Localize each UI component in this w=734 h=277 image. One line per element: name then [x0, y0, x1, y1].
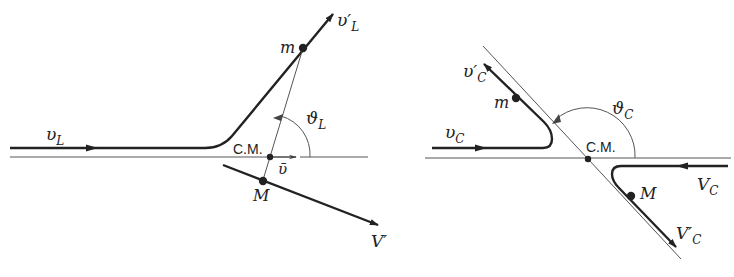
cm-cm-point	[585, 156, 591, 162]
lab-M-trajectory	[223, 165, 378, 225]
cm-cm-label: C.M.	[586, 139, 616, 155]
lab-M-label: M	[252, 186, 270, 205]
cm-v-in-label: υC	[445, 122, 465, 146]
cm-m-point	[512, 94, 520, 102]
cm-theta-label: ϑC	[612, 98, 633, 122]
collision-diagram: υL υ′L m M V′ C.M. ῡ ϑL υ′C m υC C.M. ϑC…	[0, 0, 734, 277]
cm-M-incoming-arrow-icon	[676, 163, 688, 170]
cm-m-incoming-arrow-icon	[475, 145, 487, 152]
lab-m-label: m	[280, 38, 295, 57]
lab-m-point	[299, 44, 307, 52]
cm-scatter-axis-line	[483, 46, 681, 259]
lab-V-out-label: V′	[371, 231, 387, 251]
lab-vbar-label: ῡ	[278, 160, 287, 178]
cm-M-label: M	[639, 184, 657, 203]
lab-v-out-label: υ′L	[337, 10, 359, 34]
lab-frame-panel: υL υ′L m M V′ C.M. ῡ ϑL	[10, 10, 387, 251]
cm-V-out-label: V′C	[676, 223, 701, 247]
cm-m-label: m	[494, 93, 509, 112]
lab-m-trajectory	[10, 14, 333, 148]
lab-cm-label: C.M.	[233, 141, 263, 157]
cm-M-trajectory	[612, 166, 728, 247]
lab-cm-point	[267, 154, 273, 160]
cm-M-point	[627, 192, 635, 200]
lab-v-in-label: υL	[46, 124, 64, 148]
cm-frame-panel: υ′C m υC C.M. ϑC M VC V′C	[425, 46, 731, 259]
lab-M-point	[259, 177, 267, 185]
cm-V-in-label: VC	[697, 174, 718, 198]
lab-theta-label: ϑL	[306, 108, 326, 132]
cm-v-out-label: υ′C	[463, 61, 486, 85]
cm-theta-arrow-icon	[552, 114, 561, 124]
lab-incoming-arrow-icon	[86, 145, 98, 152]
